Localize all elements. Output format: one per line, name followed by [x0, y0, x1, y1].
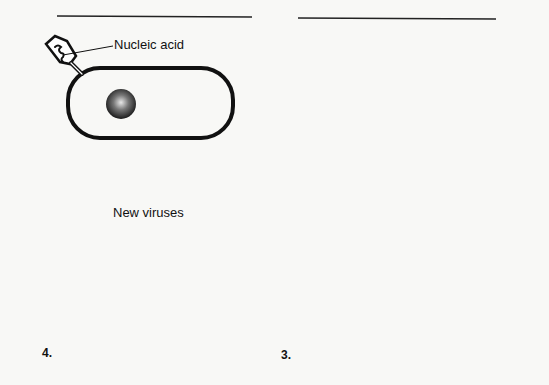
answer-line-step2[interactable]	[298, 18, 496, 19]
new-viruses-label: New viruses	[113, 205, 184, 220]
step1-cell	[68, 68, 233, 138]
answer-line-step1[interactable]	[57, 16, 252, 17]
bacterial-nucleoid	[106, 89, 136, 119]
nucleic-acid-label: Nucleic acid	[114, 37, 184, 52]
step4-number: 4.	[42, 346, 52, 360]
diagram-canvas	[0, 0, 549, 385]
step3-number: 3.	[281, 348, 291, 362]
virus-lytic-cycle-diagram: Nucleic acid New viruses 4. 3.	[0, 0, 549, 385]
